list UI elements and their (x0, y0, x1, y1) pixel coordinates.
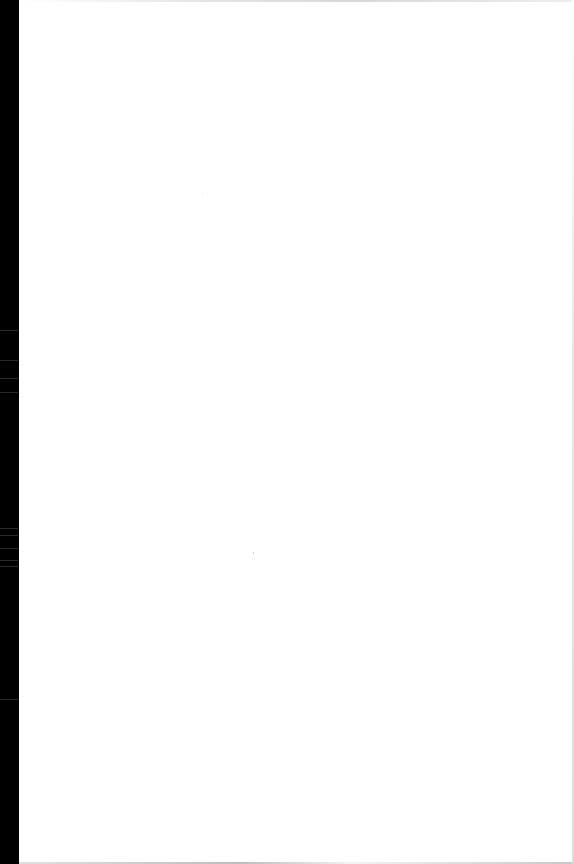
page-top-edge (19, 0, 574, 2)
scanned-page (0, 0, 574, 864)
blank-page-area (19, 0, 574, 864)
scan-speck (253, 552, 254, 554)
scan-speck (202, 193, 203, 195)
scanner-left-edge (0, 0, 19, 864)
